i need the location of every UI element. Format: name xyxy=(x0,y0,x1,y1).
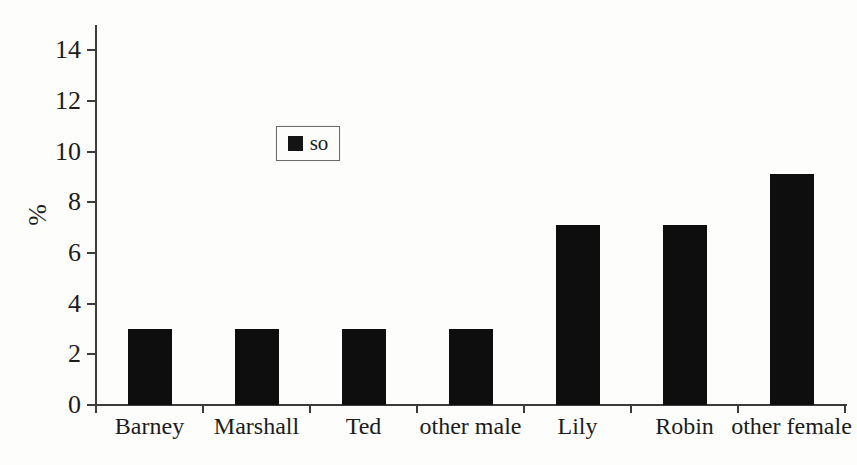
y-axis-title: % xyxy=(23,204,53,226)
y-tick-4 xyxy=(87,303,96,305)
x-tick-3 xyxy=(416,405,418,413)
legend-swatch-icon xyxy=(288,136,303,151)
legend-label: so xyxy=(310,133,329,154)
y-tick-label-2: 2 xyxy=(68,341,81,367)
bar-barney xyxy=(128,329,172,405)
y-tick-14 xyxy=(87,49,96,51)
x-tick-0 xyxy=(95,405,97,413)
bar-other-female xyxy=(770,174,814,405)
y-tick-label-12: 12 xyxy=(55,88,81,114)
bar-robin xyxy=(663,225,707,405)
y-tick-label-10: 10 xyxy=(55,139,81,165)
bar-lily xyxy=(556,225,600,405)
y-tick-10 xyxy=(87,151,96,153)
x-tick-5 xyxy=(630,405,632,413)
x-label-marshall: Marshall xyxy=(214,414,299,438)
bar-other-male xyxy=(449,329,493,405)
y-tick-6 xyxy=(87,252,96,254)
y-axis-line xyxy=(95,25,97,406)
x-tick-2 xyxy=(309,405,311,413)
y-tick-2 xyxy=(87,353,96,355)
x-label-other-male: other male xyxy=(420,414,522,438)
y-tick-8 xyxy=(87,201,96,203)
x-tick-7 xyxy=(844,405,846,413)
x-label-ted: Ted xyxy=(346,414,382,438)
bar-chart: % 02468101214 BarneyMarshallTedother mal… xyxy=(0,0,857,465)
x-tick-4 xyxy=(523,405,525,413)
y-tick-label-14: 14 xyxy=(55,37,81,63)
y-tick-label-6: 6 xyxy=(68,240,81,266)
y-tick-label-8: 8 xyxy=(68,189,81,215)
legend: so xyxy=(276,126,340,161)
y-tick-label-4: 4 xyxy=(68,291,81,317)
y-tick-12 xyxy=(87,100,96,102)
x-tick-6 xyxy=(737,405,739,413)
bar-ted xyxy=(342,329,386,405)
bar-marshall xyxy=(235,329,279,405)
y-tick-label-0: 0 xyxy=(68,392,81,418)
x-label-barney: Barney xyxy=(115,414,184,438)
plot-area: 02468101214 BarneyMarshallTedother maleL… xyxy=(96,25,845,405)
x-label-robin: Robin xyxy=(655,414,714,438)
x-tick-1 xyxy=(202,405,204,413)
x-label-lily: Lily xyxy=(558,414,598,438)
x-label-other-female: other female xyxy=(731,414,852,438)
